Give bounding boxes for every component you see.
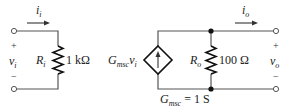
circuit-diagram: ii + vi − Ri 1 kΩ io Gmscvi Ro 100 xyxy=(0,0,292,107)
input-terminal-top xyxy=(11,28,16,33)
input-bottom-wire xyxy=(17,74,58,89)
input-top-wire xyxy=(17,31,58,46)
resistor-ro-name: Ro xyxy=(189,53,201,69)
output-voltage-label: vo xyxy=(270,54,279,70)
output-minus-sign: − xyxy=(273,71,279,82)
input-current-arrowhead-icon xyxy=(44,21,50,26)
resistor-ri-name: Ri xyxy=(35,53,46,69)
input-terminal-bottom xyxy=(11,86,16,91)
output-bottom-wire xyxy=(158,74,273,89)
dependent-source-label: Gmscvi xyxy=(108,53,137,69)
resistor-ro-value: 100 Ω xyxy=(219,53,249,67)
output-top-wire xyxy=(158,31,273,46)
resistor-ro-icon xyxy=(206,46,216,74)
input-current-label: ii xyxy=(36,3,42,19)
input-voltage-label: vi xyxy=(9,54,17,70)
input-plus-sign: + xyxy=(11,40,17,51)
junction-top xyxy=(208,28,213,33)
input-circuit: ii + vi − Ri 1 kΩ xyxy=(9,3,90,92)
output-plus-sign: + xyxy=(273,40,279,51)
resistor-ri-value: 1 kΩ xyxy=(66,53,90,67)
transconductance-label: Gmsc = 1 S xyxy=(160,92,210,107)
output-terminal-bottom xyxy=(273,86,278,91)
junction-bottom xyxy=(208,86,213,91)
output-terminal-top xyxy=(273,28,278,33)
output-current-label: io xyxy=(242,3,249,19)
resistor-ri-icon xyxy=(53,46,63,74)
output-current-arrowhead-icon xyxy=(252,21,258,26)
output-circuit: io Gmscvi Ro 100 Ω Gmsc = 1 S + vo − xyxy=(108,3,279,107)
input-minus-sign: − xyxy=(11,71,17,82)
